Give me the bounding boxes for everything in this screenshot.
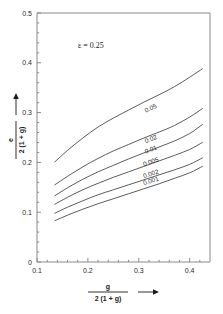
plot-frame	[37, 13, 210, 262]
x-axis-tick-labels: 0.10.20.30.4	[32, 267, 194, 274]
y-tick-label: 0.4	[22, 59, 32, 66]
x-axis-label-numerator: g	[106, 283, 110, 291]
curve-label-0.05: 0.05	[143, 102, 158, 114]
curve-0.02	[55, 109, 203, 185]
curve-labels: 0.050.020.010.0050.0020.001	[142, 102, 160, 186]
y-tick-label: 0.2	[22, 159, 32, 166]
x-tick-label: 0.3	[134, 267, 144, 274]
epsilon-annotation: ε = 0.25	[78, 41, 104, 50]
y-tick-label: 0.1	[22, 209, 32, 216]
x-axis-label: g 2 (1 + g)	[88, 283, 159, 303]
curve-0.002	[55, 158, 203, 213]
y-axis-label-denominator: 2 (1 + g)	[18, 127, 26, 154]
y-tick-label: 0	[28, 259, 32, 266]
x-tick-label: 0.4	[185, 267, 195, 274]
x-axis-ticks	[37, 258, 200, 262]
y-tick-label: 0.3	[22, 109, 32, 116]
curve-label-0.005: 0.005	[142, 155, 160, 167]
y-axis-arrow	[13, 93, 19, 115]
data-curves	[55, 69, 203, 221]
x-axis-label-denominator: 2 (1 + g)	[95, 295, 122, 303]
y-axis-ticks	[37, 13, 41, 262]
curve-0.005	[55, 142, 203, 204]
curve-label-0.02: 0.02	[144, 133, 159, 144]
y-tick-label: 0.5	[22, 10, 32, 17]
x-tick-label: 0.1	[32, 267, 42, 274]
curve-0.05	[55, 69, 203, 162]
curve-0.001	[55, 166, 203, 220]
x-axis-arrow	[138, 289, 159, 295]
chart-figure: 0.10.20.30.4 00.10.20.30.40.5 0.050.020.…	[0, 0, 223, 314]
chart-canvas: 0.10.20.30.4 00.10.20.30.40.5 0.050.020.…	[0, 0, 223, 314]
curve-label-0.01: 0.01	[144, 143, 159, 154]
y-axis-label-numerator: e	[7, 138, 14, 142]
y-axis-label: e 2 (1 + g)	[7, 93, 27, 159]
x-tick-label: 0.2	[83, 267, 93, 274]
